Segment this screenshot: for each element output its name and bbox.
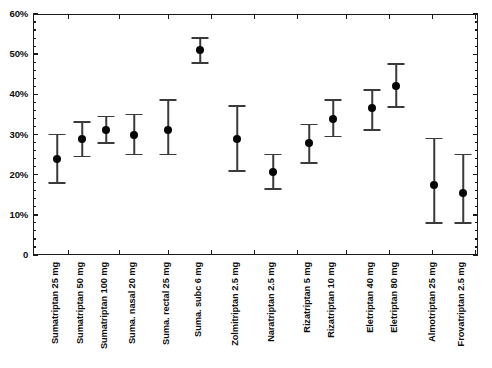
y-axis-tick-label: 0 [0, 249, 28, 260]
data-point-group [384, 0, 408, 255]
data-point-group [94, 0, 118, 255]
data-point-marker [459, 189, 467, 197]
y-axis-minor-tick [33, 118, 36, 119]
y-axis-minor-tick [33, 38, 36, 39]
y-axis-tick-label: 60% [0, 8, 28, 19]
y-axis-minor-tick [33, 230, 36, 231]
y-axis-minor-tick [33, 182, 36, 183]
x-axis-top-tick [475, 14, 476, 19]
data-point-marker [130, 131, 138, 139]
data-point-marker [102, 126, 110, 134]
error-bar-lower-cap [364, 129, 381, 131]
chart-container: 010%20%30%40%50%60% Sumatriptan 25 mgSum… [0, 0, 492, 368]
error-bar-lower-cap [455, 222, 472, 224]
data-point-group [321, 0, 345, 255]
data-point-marker [233, 135, 241, 143]
error-bar-upper-cap [455, 154, 472, 156]
data-point-marker [368, 104, 376, 112]
error-bar-lower-cap [301, 162, 318, 164]
error-bar-upper-cap [160, 99, 177, 101]
error-bar-lower-cap [49, 182, 66, 184]
x-axis-tick [119, 250, 120, 255]
data-point-group [360, 0, 384, 255]
y-axis-right-minor-tick [475, 166, 478, 167]
data-point-marker [78, 135, 86, 143]
data-point-marker [430, 181, 438, 189]
error-bar-lower-cap [126, 154, 143, 156]
y-axis-right-minor-tick [475, 182, 478, 183]
y-axis-tick [33, 134, 38, 135]
y-axis-right-minor-tick [475, 150, 478, 151]
x-axis-category-label: Frovatriptan 2.5 mg [457, 262, 466, 346]
y-axis-tick-label: 10% [0, 209, 28, 220]
error-bar-upper-cap [325, 99, 342, 101]
x-axis-top-tick [346, 14, 347, 19]
x-axis-category-label: Suma. rectal 25 mg [162, 262, 171, 345]
x-axis-category-label: Sumatriptan 50 mg [76, 262, 85, 344]
x-axis-top-tick [119, 14, 120, 19]
y-axis-right-minor-tick [475, 246, 478, 247]
error-bar-lower-cap [426, 222, 443, 224]
y-axis-minor-tick [33, 62, 36, 63]
error-bar-lower-cap [265, 188, 282, 190]
error-bar-upper-cap [265, 154, 282, 156]
data-point-group [297, 0, 321, 255]
x-axis-category-label: Rizatriptan 5 mg [303, 262, 312, 333]
data-point-group [45, 0, 69, 255]
y-axis-tick [33, 13, 38, 14]
data-point-marker [196, 46, 204, 54]
y-axis-tick-label: 40% [0, 88, 28, 99]
data-point-marker [164, 126, 172, 134]
y-axis-minor-tick [33, 102, 36, 103]
data-point-group [70, 0, 94, 255]
y-axis-minor-tick [33, 190, 36, 191]
y-axis-right-minor-tick [475, 230, 478, 231]
x-axis-category-label: Naratriptan 2.5 mg [267, 262, 276, 342]
data-point-group [451, 0, 475, 255]
y-axis-minor-tick [33, 142, 36, 143]
error-bar-upper-cap [192, 37, 209, 39]
y-axis-minor-tick [33, 126, 36, 127]
y-axis-right-minor-tick [475, 102, 478, 103]
y-axis-minor-tick [33, 246, 36, 247]
y-axis-minor-tick [33, 166, 36, 167]
error-bar-lower-cap [98, 142, 115, 144]
y-axis-right-minor-tick [475, 206, 478, 207]
error-bar-lower-cap [229, 170, 246, 172]
y-axis-right-minor-tick [475, 38, 478, 39]
y-axis-right-minor-tick [475, 198, 478, 199]
data-point-group [188, 0, 212, 255]
error-bar-upper-cap [364, 89, 381, 91]
y-axis-minor-tick [33, 29, 36, 30]
error-bar-lower-cap [160, 154, 177, 156]
error-bar-lower-cap [74, 156, 91, 158]
data-point-group [156, 0, 180, 255]
y-axis-right-minor-tick [475, 222, 478, 223]
y-axis-tick-label: 50% [0, 48, 28, 59]
x-axis-category-label: Suma. subc 6 mg [194, 262, 203, 337]
y-axis-minor-tick [33, 21, 36, 22]
y-axis-right-minor-tick [475, 126, 478, 127]
x-axis-tick [475, 250, 476, 255]
y-axis-right-minor-tick [475, 238, 478, 239]
y-axis-minor-tick [33, 150, 36, 151]
error-bar-upper-cap [426, 138, 443, 140]
y-axis-tick [33, 94, 38, 95]
error-bar-upper-cap [301, 124, 318, 126]
x-axis-top-tick [254, 14, 255, 19]
error-bar-lower-cap [325, 136, 342, 138]
x-axis-category-label: Sumatriptan 100 mg [100, 262, 109, 349]
x-axis-tick [254, 250, 255, 255]
y-axis-right-minor-tick [475, 29, 478, 30]
x-axis-category-label: Almotriptan 25 mg [428, 262, 437, 342]
x-axis-category-label: Zolmitriptan 2.5 mg [231, 262, 240, 346]
y-axis-minor-tick [33, 78, 36, 79]
y-axis-right-minor-tick [475, 158, 478, 159]
error-bar-upper-cap [49, 134, 66, 136]
y-axis-minor-tick [33, 70, 36, 71]
error-bar-lower-cap [192, 62, 209, 64]
x-axis-tick [346, 250, 347, 255]
data-point-marker [329, 115, 337, 123]
data-point-group [122, 0, 146, 255]
x-axis-category-label: Eletriptan 40 mg [366, 262, 375, 333]
